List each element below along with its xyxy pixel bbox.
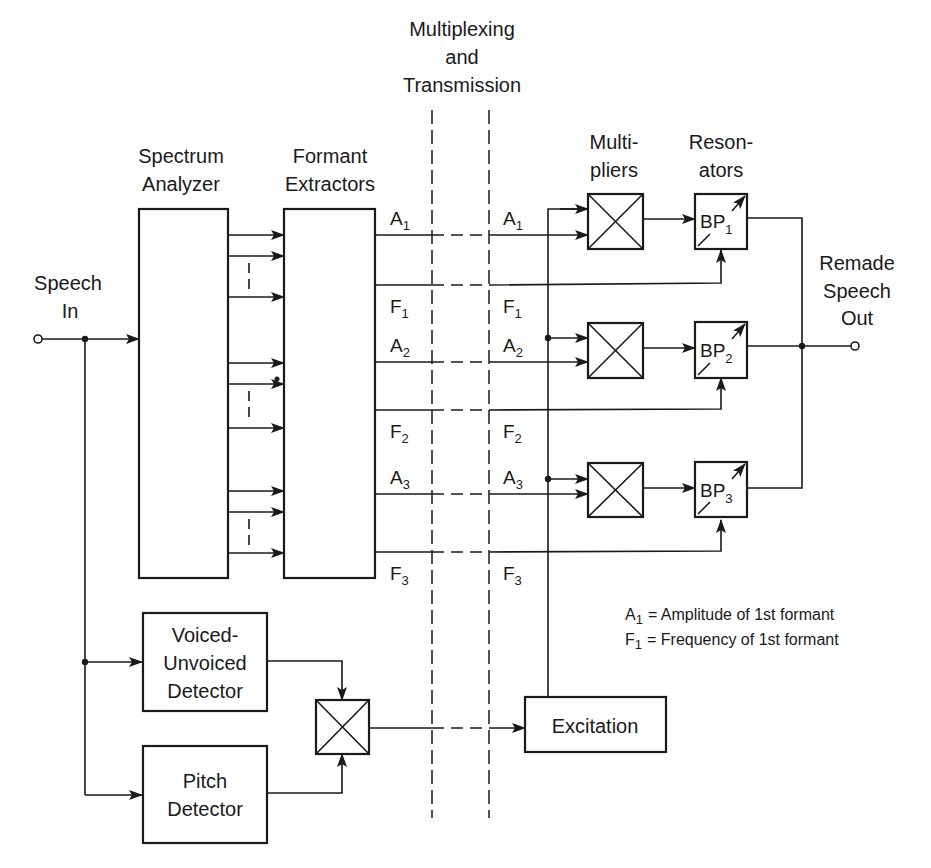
svg-text:A1: A1 xyxy=(503,208,523,233)
svg-text:Detector: Detector xyxy=(167,798,243,820)
svg-text:F3: F3 xyxy=(503,563,522,588)
multipliers-heading: Multi- pliers xyxy=(590,131,639,181)
svg-text:A3: A3 xyxy=(503,467,523,492)
svg-text:Spectrum: Spectrum xyxy=(138,145,224,167)
multiplier-1 xyxy=(588,194,643,249)
formant-vocoder-diagram: Multiplexing and Transmission Spectrum A… xyxy=(0,0,931,868)
resonators-heading: Reson- ators xyxy=(689,131,753,181)
multiplier-3 xyxy=(588,463,643,517)
parameter-labels-sender: A1 F1 A2 F2 A3 F3 xyxy=(390,208,410,588)
excitation-bus xyxy=(545,209,588,697)
resonator-bp2: BP2 xyxy=(695,322,747,378)
resonator-bp3: BP3 xyxy=(695,462,747,517)
multiplexing-title: Multiplexing and Transmission xyxy=(403,18,521,96)
excitation-label: Excitation xyxy=(552,715,639,737)
pitch-detector-block xyxy=(143,746,267,843)
multiplier-to-resonator-arrows xyxy=(643,219,695,488)
spectrum-analyzer-heading: Spectrum Analyzer xyxy=(138,145,224,195)
svg-text:F2: F2 xyxy=(390,421,409,446)
svg-text:Formant: Formant xyxy=(293,145,368,167)
svg-text:A2: A2 xyxy=(503,335,523,360)
svg-text:F1= Frequency of 1st formant: F1= Frequency of 1st formant xyxy=(625,631,839,652)
source-multiplier xyxy=(267,661,369,793)
svg-text:Detector: Detector xyxy=(167,680,243,702)
svg-text:Voiced-: Voiced- xyxy=(172,624,239,646)
resonator-bp1: BP1 xyxy=(695,194,747,249)
spectrum-analyzer-block xyxy=(139,209,228,578)
svg-text:Extractors: Extractors xyxy=(285,173,375,195)
input-terminal xyxy=(34,335,42,343)
svg-text:A2: A2 xyxy=(390,335,410,360)
svg-text:F2: F2 xyxy=(503,421,522,446)
svg-text:Unvoiced: Unvoiced xyxy=(163,652,246,674)
legend: A1= Amplitude of 1st formant F1= Frequen… xyxy=(625,606,839,652)
svg-text:Speech: Speech xyxy=(34,272,102,294)
svg-text:Analyzer: Analyzer xyxy=(142,173,220,195)
channel-arrows xyxy=(228,235,284,553)
formant-extractors-block xyxy=(284,209,375,578)
svg-text:Multiplexing: Multiplexing xyxy=(409,18,515,40)
formant-extractors-heading: Formant Extractors xyxy=(285,145,375,195)
svg-text:Pitch: Pitch xyxy=(183,770,227,792)
svg-text:Out: Out xyxy=(841,307,874,329)
parameter-labels-receiver: A1 F1 A2 F2 A3 F3 xyxy=(503,208,523,588)
svg-text:A3: A3 xyxy=(390,467,410,492)
svg-text:Multi-: Multi- xyxy=(590,131,639,153)
svg-text:pliers: pliers xyxy=(590,159,638,181)
output-terminal xyxy=(851,342,859,350)
svg-text:A1= Amplitude of 1st formant: A1= Amplitude of 1st formant xyxy=(625,606,835,627)
svg-text:A1: A1 xyxy=(390,208,410,233)
voiced-unvoiced-detector-label: Voiced- Unvoiced Detector xyxy=(163,624,246,702)
svg-text:F3: F3 xyxy=(390,563,409,588)
svg-text:F1: F1 xyxy=(503,296,522,321)
speech-in-label: Speech In xyxy=(34,272,102,322)
svg-text:F1: F1 xyxy=(390,296,409,321)
svg-text:In: In xyxy=(62,300,79,322)
svg-text:Reson-: Reson- xyxy=(689,131,753,153)
svg-text:and: and xyxy=(445,46,478,68)
svg-text:ators: ators xyxy=(699,159,743,181)
svg-text:Transmission: Transmission xyxy=(403,74,521,96)
svg-text:Speech: Speech xyxy=(823,280,891,302)
remade-speech-out-label: Remade Speech Out xyxy=(819,252,895,329)
multiplier-2 xyxy=(588,323,643,378)
svg-text:Remade: Remade xyxy=(819,252,895,274)
